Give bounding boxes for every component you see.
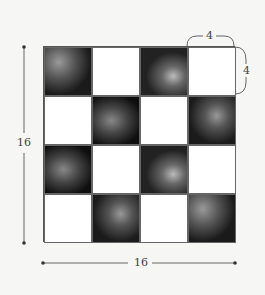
quilt-grid <box>43 46 235 242</box>
width-label: 16 <box>131 256 151 269</box>
white-block <box>188 145 236 194</box>
white-block <box>92 47 140 96</box>
height-label: 16 <box>14 136 34 149</box>
photo-block <box>188 96 236 145</box>
white-block <box>140 96 188 145</box>
photo-block <box>140 145 188 194</box>
white-block <box>188 47 236 96</box>
white-block <box>92 145 140 194</box>
block-height-label: 4 <box>240 64 253 77</box>
photo-block <box>44 47 92 96</box>
photo-block <box>92 96 140 145</box>
white-block <box>44 194 92 243</box>
white-block <box>140 194 188 243</box>
white-block <box>44 96 92 145</box>
block-width-label: 4 <box>203 29 216 42</box>
photo-block <box>44 145 92 194</box>
photo-block <box>92 194 140 243</box>
photo-block <box>140 47 188 96</box>
photo-block <box>188 194 236 243</box>
